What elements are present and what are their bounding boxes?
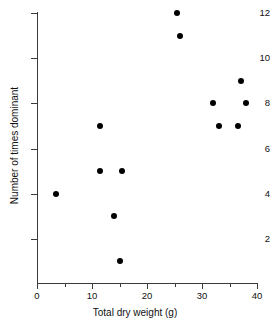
data-point bbox=[117, 258, 123, 264]
data-point bbox=[111, 213, 117, 219]
data-points-layer bbox=[0, 0, 270, 326]
data-point bbox=[177, 33, 183, 39]
data-point bbox=[238, 78, 244, 84]
data-point bbox=[174, 10, 180, 16]
data-point bbox=[243, 100, 249, 106]
data-point bbox=[97, 123, 103, 129]
y-axis-title: Number of times dominant bbox=[9, 46, 20, 246]
data-point bbox=[235, 123, 241, 129]
data-point bbox=[119, 168, 125, 174]
scatter-plot: 24681012 010203040 Total dry weight (g) … bbox=[0, 0, 270, 326]
data-point bbox=[210, 100, 216, 106]
x-axis-title: Total dry weight (g) bbox=[0, 307, 270, 318]
data-point bbox=[53, 191, 59, 197]
data-point bbox=[97, 168, 103, 174]
data-point bbox=[216, 123, 222, 129]
